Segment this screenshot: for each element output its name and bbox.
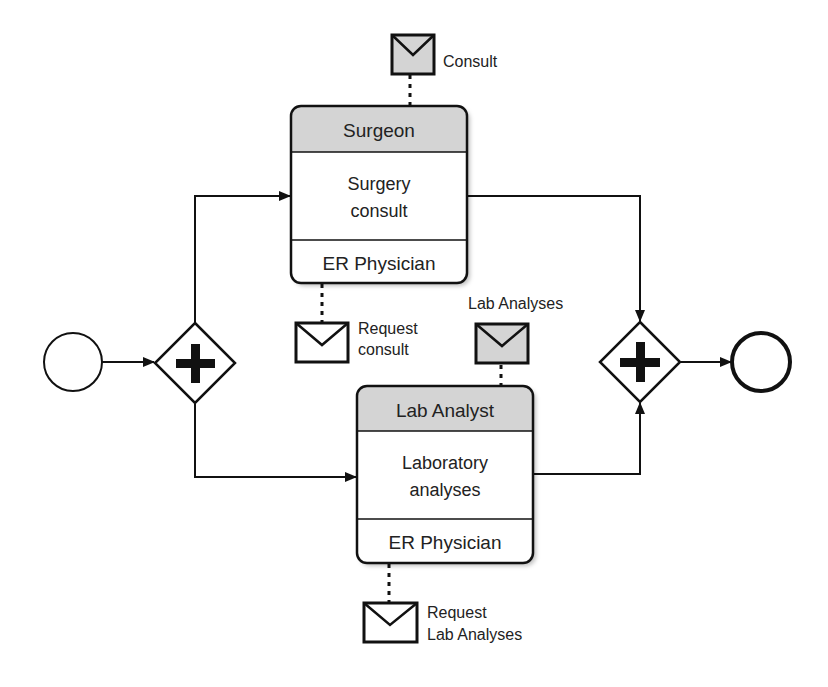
message-label-line2: consult bbox=[358, 341, 409, 358]
envelope-icon bbox=[296, 323, 348, 362]
envelope-icon bbox=[364, 603, 417, 642]
message-label-line1: Request bbox=[427, 604, 487, 621]
message-label-line1: Request bbox=[358, 320, 418, 337]
envelope-icon bbox=[476, 324, 528, 363]
choreography-task-laboratory-analyses[interactable]: Lab Analyst Laboratory analyses ER Physi… bbox=[357, 386, 533, 563]
bottom-participant-label: ER Physician bbox=[323, 253, 436, 274]
message-request-consult[interactable]: Request consult bbox=[296, 320, 418, 362]
choreography-task-surgery-consult[interactable]: Surgeon Surgery consult ER Physician bbox=[291, 106, 467, 283]
start-event[interactable] bbox=[44, 333, 102, 391]
message-consult[interactable]: Consult bbox=[392, 35, 498, 74]
message-label: Consult bbox=[443, 53, 498, 70]
task-name-line1: Laboratory bbox=[402, 453, 488, 473]
message-label-line2: Lab Analyses bbox=[427, 626, 522, 643]
flow-split-to-surgery[interactable] bbox=[195, 196, 290, 323]
flow-lab-to-join[interactable] bbox=[533, 403, 640, 474]
message-label: Lab Analyses bbox=[468, 295, 563, 312]
message-request-lab-analyses[interactable]: Request Lab Analyses bbox=[364, 603, 522, 643]
envelope-icon bbox=[392, 35, 434, 74]
bpmn-diagram: Surgeon Surgery consult ER Physician Lab… bbox=[0, 0, 828, 687]
end-event[interactable] bbox=[732, 333, 790, 391]
task-name-line2: analyses bbox=[409, 480, 480, 500]
flow-split-to-lab[interactable] bbox=[195, 404, 356, 477]
top-participant-label: Surgeon bbox=[343, 120, 415, 141]
parallel-split-gateway[interactable] bbox=[155, 323, 235, 403]
top-participant-label: Lab Analyst bbox=[396, 400, 495, 421]
parallel-join-gateway[interactable] bbox=[600, 322, 680, 402]
task-name-line1: Surgery bbox=[347, 174, 410, 194]
task-name-line2: consult bbox=[350, 201, 407, 221]
message-lab-analyses[interactable]: Lab Analyses bbox=[468, 295, 563, 363]
bottom-participant-label: ER Physician bbox=[389, 532, 502, 553]
